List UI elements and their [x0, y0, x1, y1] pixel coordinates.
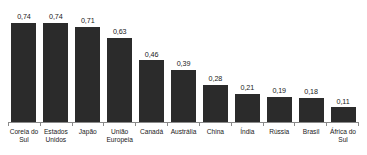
plot-area: 0,74 0,74 0,71 0,63 0,46 0,39 0,28 [8, 4, 359, 122]
bar [11, 23, 36, 122]
bar [331, 107, 356, 122]
bar-value-label: 0,74 [49, 13, 63, 20]
x-tick-label: Coreia do Sul [8, 128, 40, 145]
axis-tick [40, 122, 41, 126]
bar-column: 0,63 [104, 4, 136, 122]
x-tick-label: União Europeia [104, 128, 136, 145]
axis-tick [326, 122, 327, 126]
bar-column: 0,11 [327, 4, 359, 122]
axis-tick [135, 122, 136, 126]
bar-column: 0,74 [40, 4, 72, 122]
bar-column: 0,28 [199, 4, 231, 122]
x-tick-label: Rússia [263, 128, 295, 145]
x-tick-label: Austrália [168, 128, 200, 145]
bar [171, 70, 196, 122]
axis-tick [8, 122, 9, 126]
bar [235, 94, 260, 122]
bar-value-label: 0,46 [145, 51, 159, 58]
x-tick-label: Brasil [295, 128, 327, 145]
x-tick-label: Canadá [136, 128, 168, 145]
bar-value-label: 0,11 [336, 98, 349, 105]
bar-value-label: 0,71 [81, 17, 95, 24]
axis-tick [358, 122, 359, 126]
bar-column: 0,21 [231, 4, 263, 122]
bar-value-label: 0,28 [209, 75, 223, 82]
bar [107, 38, 132, 122]
axis-tick [72, 122, 73, 126]
axis-tick [263, 122, 264, 126]
bar-column: 0,18 [295, 4, 327, 122]
axis-tick [294, 122, 295, 126]
x-tick-label: Estados Unidos [40, 128, 72, 145]
x-tick-label: Índia [231, 128, 263, 145]
bar-value-label: 0,21 [241, 84, 255, 91]
bar-value-label: 0,19 [272, 87, 286, 94]
bar-column: 0,74 [8, 4, 40, 122]
bar-column: 0,19 [263, 4, 295, 122]
bar [43, 23, 68, 122]
x-tick-label: África do Sul [327, 128, 359, 145]
bar-value-label: 0,63 [113, 28, 127, 35]
bar-value-label: 0,18 [304, 88, 318, 95]
x-axis-ticks [8, 122, 359, 127]
bar [299, 98, 324, 122]
bar [139, 60, 164, 122]
axis-tick [167, 122, 168, 126]
x-axis-labels: Coreia do Sul Estados Unidos Japão União… [8, 128, 359, 145]
bar-chart: 0,74 0,74 0,71 0,63 0,46 0,39 0,28 [0, 0, 367, 155]
bar-value-label: 0,39 [177, 60, 191, 67]
x-tick-label: China [199, 128, 231, 145]
axis-tick [103, 122, 104, 126]
bar-column: 0,46 [136, 4, 168, 122]
bar-column: 0,39 [168, 4, 200, 122]
bar [267, 97, 292, 122]
bar [75, 27, 100, 122]
axis-tick [199, 122, 200, 126]
x-tick-label: Japão [72, 128, 104, 145]
bar-value-label: 0,74 [17, 13, 31, 20]
bar [203, 85, 228, 122]
axis-tick [231, 122, 232, 126]
bar-column: 0,71 [72, 4, 104, 122]
